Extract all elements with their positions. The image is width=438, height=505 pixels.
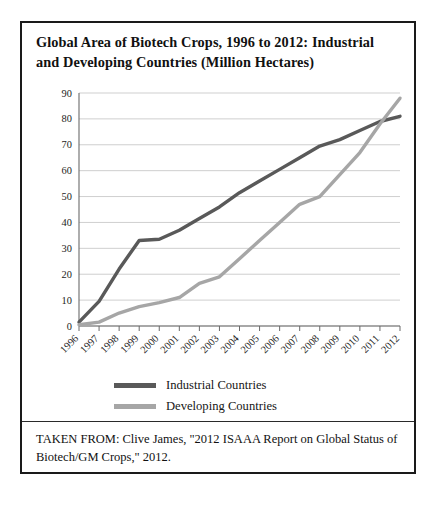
x-tick-label: 2011 xyxy=(359,333,381,355)
x-tick-label: 2009 xyxy=(319,333,341,355)
x-tick-label: 2008 xyxy=(299,333,321,355)
chart-legend: Industrial Countries Developing Countrie… xyxy=(22,375,414,417)
x-tick-label: 2005 xyxy=(239,333,261,355)
x-tick-label: 1998 xyxy=(98,333,120,355)
x-tick-label: 2006 xyxy=(259,333,281,355)
x-tick-label: 2007 xyxy=(279,333,301,355)
legend-swatch-developing xyxy=(114,404,156,409)
x-axis-tick-marks xyxy=(79,326,400,331)
source-note: TAKEN FROM: Clive James, "2012 ISAAA Rep… xyxy=(36,431,398,467)
x-tick-label: 2012 xyxy=(379,333,401,355)
chart-plot-area: 0102030405060708090 19961997199819992000… xyxy=(32,85,406,373)
x-tick-label: 1996 xyxy=(58,333,80,355)
y-tick-label: 20 xyxy=(62,269,72,280)
y-tick-label: 90 xyxy=(62,88,72,99)
legend-swatch-industrial xyxy=(114,383,156,388)
x-tick-label: 2004 xyxy=(218,332,241,355)
data-series-group xyxy=(79,98,400,325)
legend-item-industrial: Industrial Countries xyxy=(22,375,414,396)
x-tick-label: 2000 xyxy=(138,333,160,355)
x-tick-label: 1997 xyxy=(78,333,100,355)
x-tick-label: 2001 xyxy=(158,333,180,355)
title-line-2: and Developing Countries (Million Hectar… xyxy=(36,54,314,70)
y-tick-label: 50 xyxy=(62,191,72,202)
line-chart: 0102030405060708090 19961997199819992000… xyxy=(32,85,406,373)
y-tick-label: 80 xyxy=(62,113,72,124)
x-tick-label: 1999 xyxy=(118,333,140,355)
y-tick-label: 0 xyxy=(67,321,72,332)
series-line-developing xyxy=(79,98,400,325)
y-tick-label: 30 xyxy=(62,243,72,254)
legend-item-developing: Developing Countries xyxy=(22,396,414,417)
source-divider xyxy=(22,421,414,422)
gridlines-group xyxy=(79,93,400,326)
y-tick-label: 70 xyxy=(62,139,72,150)
x-tick-label: 2010 xyxy=(339,333,361,355)
legend-label-industrial: Industrial Countries xyxy=(166,378,266,393)
x-axis-tick-labels: 1996199719981999200020012002200320042005… xyxy=(58,332,401,355)
page-title: Global Area of Biotech Crops, 1996 to 20… xyxy=(36,33,396,72)
y-tick-label: 10 xyxy=(62,295,72,306)
x-tick-label: 2002 xyxy=(178,333,200,355)
legend-label-developing: Developing Countries xyxy=(166,399,277,414)
title-line-1: Global Area of Biotech Crops, 1996 to 20… xyxy=(36,34,374,50)
figure-container: Global Area of Biotech Crops, 1996 to 20… xyxy=(20,21,416,474)
y-tick-label: 40 xyxy=(62,217,72,228)
series-line-industrial xyxy=(79,116,400,322)
y-axis-tick-labels: 0102030405060708090 xyxy=(62,88,72,332)
y-tick-label: 60 xyxy=(62,165,72,176)
x-tick-label: 2003 xyxy=(198,333,220,355)
